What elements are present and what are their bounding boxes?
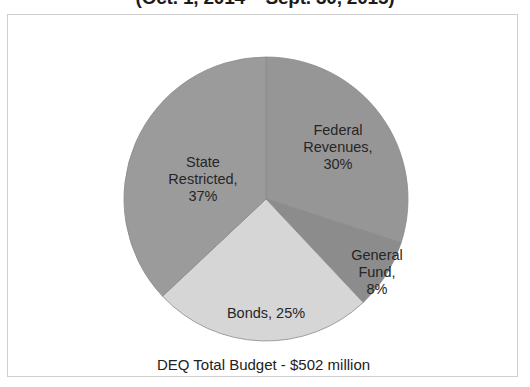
chart-title: (Oct. 1, 2014 – Sept. 30, 2015) (0, 0, 530, 9)
pie-chart: Federal Revenues, 30% State Restricted, … (8, 15, 519, 378)
chart-caption: DEQ Total Budget - $502 million (8, 356, 519, 373)
pie-slice-group (124, 57, 408, 341)
pie-svg (8, 15, 519, 378)
chart-frame: Federal Revenues, 30% State Restricted, … (7, 14, 518, 377)
